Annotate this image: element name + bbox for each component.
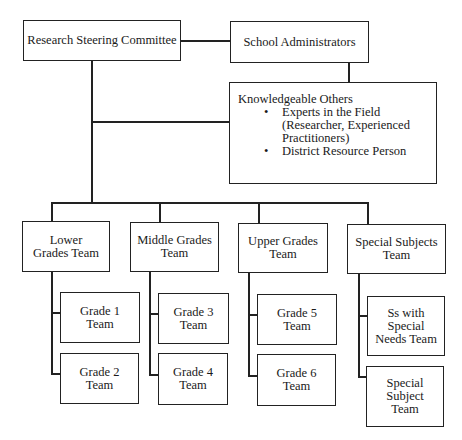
connector-steering-trunk <box>91 60 93 203</box>
special-subjects-team-box: Special Subjects Team <box>347 224 446 274</box>
connector-drop-special <box>367 202 369 224</box>
grade-6-team-box: Grade 6 Team <box>257 354 336 406</box>
connector-steering-admins <box>180 40 230 42</box>
connector-admins-knowledgeable <box>348 62 350 82</box>
connector-team-bar <box>51 202 368 204</box>
special-subject-team-box: Special Subject Team <box>366 366 444 427</box>
upper-grades-team-box: Upper Grades Team <box>238 223 328 273</box>
grade-5-team-box: Grade 5 Team <box>257 294 337 345</box>
grade-5-team-label: Grade 5 Team <box>275 307 320 333</box>
knowledgeable-others-item: District Resource Person <box>238 145 436 158</box>
knowledgeable-others-item: Experts in the Field (Researcher, Experi… <box>238 106 412 145</box>
connector-upper-children <box>248 272 250 376</box>
grade-1-team-box: Grade 1 Team <box>60 292 140 343</box>
grade-2-team-label: Grade 2 Team <box>77 366 122 392</box>
connector-drop-middle <box>159 202 161 222</box>
lower-grades-team-box: Lower Grades Team <box>22 221 110 272</box>
middle-grades-team-box: Middle Grades Team <box>130 222 219 272</box>
connector-lower-children <box>51 271 53 374</box>
grade-1-team-label: Grade 1 Team <box>78 305 123 331</box>
grade-6-team-label: Grade 6 Team <box>274 367 319 393</box>
grade-3-team-label: Grade 3 Team <box>171 306 216 332</box>
research-steering-committee-label: Research Steering Committee <box>27 34 176 47</box>
knowledgeable-others-list: Experts in the Field (Researcher, Experi… <box>238 106 436 158</box>
special-subjects-team-label: Special Subjects Team <box>352 236 442 262</box>
lower-grades-team-label: Lower Grades Team <box>31 234 101 260</box>
connector-drop-lower <box>51 202 53 222</box>
connector-middle-children <box>149 272 151 375</box>
grade-4-team-box: Grade 4 Team <box>158 353 228 405</box>
special-subject-team-label: Special Subject Team <box>381 377 429 416</box>
middle-grades-team-label: Middle Grades Team <box>137 234 212 260</box>
ss-special-needs-team-label: Ss with Special Needs Team <box>373 307 439 346</box>
grade-3-team-box: Grade 3 Team <box>158 293 229 344</box>
school-administrators-label: School Administrators <box>243 36 355 49</box>
connector-special-children <box>358 273 360 377</box>
grade-4-team-label: Grade 4 Team <box>171 366 216 392</box>
knowledgeable-others-box: Knowledgeable Others Experts in the Fiel… <box>229 82 437 184</box>
upper-grades-team-label: Upper Grades Team <box>248 235 318 261</box>
connector-drop-upper <box>258 202 260 223</box>
school-administrators-box: School Administrators <box>230 21 369 63</box>
grade-2-team-box: Grade 2 Team <box>60 353 139 404</box>
research-steering-committee-box: Research Steering Committee <box>23 20 181 61</box>
connector-trunk-knowledgeable <box>91 121 229 123</box>
ss-special-needs-team-box: Ss with Special Needs Team <box>367 296 445 356</box>
